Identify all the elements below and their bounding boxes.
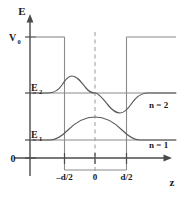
x-tick-label-right-wall: d/2 [120,172,133,182]
x-axis-label: z [170,176,175,188]
y-tick-label-e2-subscript: 2 [39,88,42,95]
state-label-n1: n = 1 [149,140,169,150]
y-axis-label: E [18,5,25,17]
y-tick-label-v0-group: V 0 [9,32,21,45]
figure-canvas: E z V 0 E 2 E 1 0 –d/2 0 d/2 n = 2 n = 1 [0,0,183,198]
state-label-n2: n = 2 [149,100,169,110]
y-tick-label-e1-base: E [31,129,38,140]
y-tick-label-e2-base: E [31,82,38,93]
wavefunction-curve-n1 [33,117,176,140]
y-tick-label-v0-base: V [9,32,17,43]
y-tick-label-zero: 0 [11,153,16,164]
y-axis-arrowhead-icon [27,14,34,23]
y-tick-label-e1-subscript: 1 [39,135,42,142]
x-axis-arrowhead-icon [164,155,173,162]
y-tick-label-v0-subscript: 0 [18,38,21,45]
x-tick-label-left-wall: –d/2 [55,172,73,182]
energy-diagram-figure: E z V 0 E 2 E 1 0 –d/2 0 d/2 n = 2 n = 1 [0,0,183,198]
x-tick-label-origin: 0 [93,172,98,182]
